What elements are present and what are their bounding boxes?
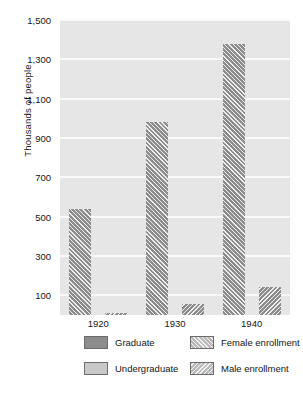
legend-item: Undergraduate (84, 362, 178, 375)
bar-1920-undergraduate (105, 313, 127, 315)
chart-figure: Thousands of people 1003005007009001,100… (0, 0, 303, 399)
bar-1940-undergraduate (259, 287, 281, 315)
legend-swatch-icon (84, 336, 108, 349)
legend-swatch-icon (190, 362, 214, 375)
legend-label: Undergraduate (115, 363, 178, 374)
y-axis-tick-label: 1,100 (27, 93, 51, 104)
plot-area (60, 20, 290, 315)
y-axis-tick-label: 300 (35, 251, 51, 262)
bar-1920-graduate (69, 209, 91, 315)
bar-group-1930 (137, 20, 214, 315)
y-axis-tick-label: 100 (35, 290, 51, 301)
x-axis-tick-labels: 192019301940 (60, 318, 290, 332)
legend-swatch-icon (190, 336, 214, 349)
legend-item: Female enrollment (190, 336, 300, 349)
legend-label: Male enrollment (221, 363, 289, 374)
legend-label: Graduate (115, 337, 155, 348)
bar-1940-graduate (223, 44, 245, 315)
y-axis-tick-labels: 1003005007009001,1001,3001,500 (0, 20, 55, 315)
bar-1930-graduate (146, 122, 168, 315)
x-axis-tick-label: 1920 (88, 318, 109, 329)
legend-item: Male enrollment (190, 362, 289, 375)
x-axis-tick-label: 1940 (241, 318, 262, 329)
y-axis-tick-label: 1,500 (27, 15, 51, 26)
legend-label: Female enrollment (221, 337, 300, 348)
bar-group-1920 (60, 20, 137, 315)
x-axis-tick-label: 1930 (164, 318, 185, 329)
y-axis-tick-label: 700 (35, 172, 51, 183)
legend-item: Graduate (84, 336, 155, 349)
chart-legend: GraduateUndergraduateFemale enrollmentMa… (62, 336, 300, 388)
y-axis-tick-label: 1,300 (27, 54, 51, 65)
bar-1930-undergraduate (182, 304, 204, 315)
legend-swatch-icon (84, 362, 108, 375)
bar-group-1940 (213, 20, 290, 315)
y-axis-tick-label: 900 (35, 133, 51, 144)
y-axis-tick-label: 500 (35, 211, 51, 222)
